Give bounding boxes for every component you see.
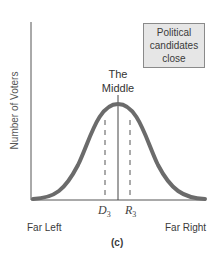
middle-label-line-2: Middle — [98, 81, 138, 95]
annotation-box: Political candidates close — [143, 23, 205, 68]
box-line-2: candidates — [144, 39, 204, 52]
d3-subscript: 3 — [107, 210, 111, 219]
d3-label: D3 — [98, 204, 111, 221]
box-line-1: Political — [144, 26, 204, 39]
far-left-label: Far Left — [27, 222, 61, 234]
box-line-3: close — [144, 52, 204, 65]
d3-letter: D — [98, 203, 107, 217]
middle-label-line-1: The — [98, 67, 138, 81]
caption: (c) — [111, 237, 123, 249]
r3-subscript: 3 — [132, 210, 136, 219]
r3-label: R3 — [125, 204, 136, 221]
bell-curve — [33, 104, 205, 199]
y-axis-label: Number of Voters — [9, 61, 20, 161]
far-right-label: Far Right — [165, 222, 206, 234]
middle-label: The Middle — [98, 67, 138, 95]
